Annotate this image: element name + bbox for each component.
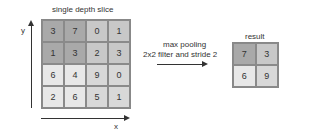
input-cell: 1 (108, 86, 130, 108)
output-cell: 6 (233, 65, 256, 87)
input-cell: 2 (42, 86, 64, 108)
input-cell: 3 (108, 42, 130, 64)
operation-label-line1: max pooling (163, 40, 206, 49)
output-title: result (245, 32, 265, 41)
y-axis-line (31, 25, 32, 108)
output-grid: 7369 (232, 42, 279, 88)
input-cell: 6 (42, 64, 64, 86)
operation-label-line2: 2x2 filter and stride 2 (143, 50, 217, 59)
input-cell: 5 (86, 86, 108, 108)
output-cell: 7 (233, 43, 256, 65)
input-cell: 3 (64, 42, 86, 64)
x-axis-label: x (114, 122, 118, 131)
input-cell: 3 (42, 20, 64, 42)
input-cell: 1 (42, 42, 64, 64)
x-arrow-head-icon (124, 115, 130, 121)
input-cell: 6 (64, 86, 86, 108)
input-cell: 7 (64, 20, 86, 42)
input-cell: 2 (86, 42, 108, 64)
input-cell: 0 (108, 64, 130, 86)
input-cell: 9 (86, 64, 108, 86)
input-grid: 3701132364902651 (41, 19, 131, 109)
operation-arrow-head-icon (202, 61, 208, 67)
input-cell: 4 (64, 64, 86, 86)
y-axis-label: y (21, 26, 25, 35)
x-axis-line (41, 118, 125, 119)
output-cell: 9 (256, 65, 279, 87)
operation-arrow-line (157, 64, 203, 65)
input-cell: 1 (108, 20, 130, 42)
input-title: single depth slice (52, 5, 113, 14)
input-cell: 0 (86, 20, 108, 42)
output-cell: 3 (256, 43, 279, 65)
